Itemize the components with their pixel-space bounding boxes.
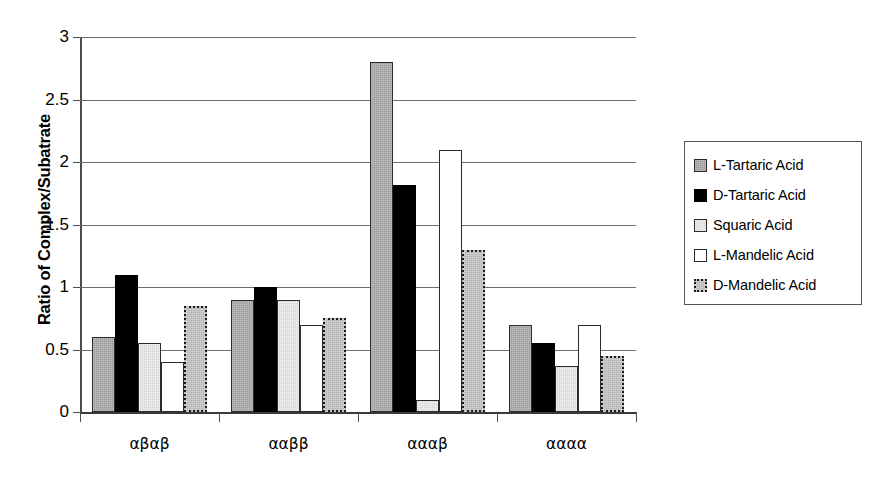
bar [323, 318, 346, 412]
legend-item-label: Squaric Acid [713, 217, 792, 233]
bar [231, 300, 254, 413]
legend-item-label: L-Mandelic Acid [713, 247, 814, 263]
x-tick-mark [80, 412, 81, 422]
y-tick-mark [73, 37, 80, 38]
y-tick-label: 0.5 [45, 340, 69, 360]
bar [393, 185, 416, 413]
bar [92, 337, 115, 412]
gridline [80, 37, 636, 38]
legend-swatch-icon [694, 189, 707, 202]
bar [161, 362, 184, 412]
bar [138, 343, 161, 412]
bar [184, 306, 207, 412]
y-tick-label: 3 [60, 27, 69, 47]
bar [462, 250, 485, 413]
y-tick-label: 2 [60, 152, 69, 172]
y-tick-mark [73, 100, 80, 101]
bar [370, 62, 393, 412]
x-tick-mark [636, 412, 637, 422]
x-axis-category-label: ααββ [268, 435, 308, 453]
legend-swatch-icon [694, 159, 707, 172]
bar [555, 366, 578, 412]
bar [439, 150, 462, 413]
y-tick-mark [73, 162, 80, 163]
gridline [80, 225, 636, 226]
x-tick-mark [219, 412, 220, 422]
legend-item-label: D-Mandelic Acid [713, 277, 816, 293]
gridline [80, 162, 636, 163]
y-tick-mark [73, 225, 80, 226]
x-axis-category-label: αααα [546, 435, 587, 453]
bar [254, 287, 277, 412]
bar [300, 325, 323, 413]
legend-item[interactable]: D-Tartaric Acid [694, 180, 861, 210]
x-axis-category-label: αβαβ [129, 435, 169, 453]
x-axis-category-label: αααβ [407, 435, 448, 453]
y-tick-mark [73, 350, 80, 351]
bar-chart: Ratio of Complex/Subatrate 00.511.522.53… [0, 0, 890, 480]
x-tick-mark [358, 412, 359, 422]
legend-item[interactable]: L-Mandelic Acid [694, 240, 861, 270]
legend-item[interactable]: D-Mandelic Acid [694, 270, 861, 300]
gridline [80, 100, 636, 101]
chart-legend: L-Tartaric Acid D-Tartaric Acid Squaric … [684, 141, 862, 305]
y-tick-label: 2.5 [45, 90, 69, 110]
bar [532, 343, 555, 412]
legend-swatch-icon [694, 279, 707, 292]
legend-item-label: L-Tartaric Acid [713, 157, 803, 173]
y-tick-label: 1.5 [45, 215, 69, 235]
gridline [80, 287, 636, 288]
legend-swatch-icon [694, 249, 707, 262]
y-tick-mark [73, 287, 80, 288]
bar [277, 300, 300, 413]
plot-area: 00.511.522.53 αβαβααββαααβαααα [80, 37, 636, 412]
y-tick-mark [73, 412, 80, 413]
legend-item-label: D-Tartaric Acid [713, 187, 806, 203]
legend-swatch-icon [694, 219, 707, 232]
bar [578, 325, 601, 413]
bar [601, 356, 624, 412]
bar [416, 400, 439, 413]
y-tick-label: 0 [60, 402, 69, 422]
x-tick-mark [497, 412, 498, 422]
bar [509, 325, 532, 413]
bar [115, 275, 138, 413]
y-tick-label: 1 [60, 277, 69, 297]
legend-item[interactable]: L-Tartaric Acid [694, 150, 861, 180]
legend-item[interactable]: Squaric Acid [694, 210, 861, 240]
